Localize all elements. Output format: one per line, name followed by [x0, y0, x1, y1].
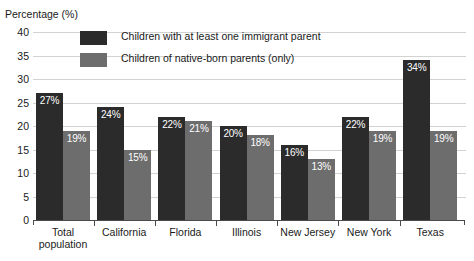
gridline-25 — [33, 103, 466, 104]
bar-florida-series-1: 21% — [185, 121, 212, 220]
y-tick-label-15: 15 — [1, 144, 29, 156]
y-tick-label-40: 40 — [1, 26, 29, 38]
bar-value-label: 22% — [342, 119, 369, 130]
bar-value-label: 15% — [124, 152, 151, 163]
category-label-line: population — [24, 238, 102, 250]
legend-swatch-icon-series-0 — [80, 31, 107, 45]
y-tick-label-20: 20 — [1, 120, 29, 132]
bar-texas-series-0: 34% — [403, 60, 430, 220]
bar-value-label: 24% — [97, 109, 124, 120]
bar-california-series-0: 24% — [97, 107, 124, 220]
x-axis-start-tick — [33, 220, 34, 225]
legend-swatch-icon-series-1 — [80, 53, 107, 67]
bar-value-label: 22% — [158, 119, 185, 130]
bar-value-label: 18% — [247, 137, 274, 148]
bar-total-population-series-0: 27% — [36, 93, 63, 220]
y-tick-label-25: 25 — [1, 97, 29, 109]
category-label-line: Texas — [391, 226, 469, 238]
bar-value-label: 20% — [220, 128, 247, 139]
bar-chart: Percentage (%) 0510152025303540 27%19%24… — [0, 0, 474, 261]
bar-new-jersey-series-0: 16% — [281, 145, 308, 220]
bar-new-york-series-1: 19% — [369, 131, 396, 220]
y-tick-label-35: 35 — [1, 50, 29, 62]
category-label-texas: Texas — [391, 226, 469, 238]
bar-florida-series-0: 22% — [158, 117, 185, 220]
bar-texas-series-1: 19% — [430, 131, 457, 220]
y-tick-label-30: 30 — [1, 73, 29, 85]
bar-illinois-series-1: 18% — [247, 135, 274, 220]
legend-label-series-1: Children of native-born parents (only) — [121, 52, 294, 64]
gridline-30 — [33, 79, 466, 80]
bar-value-label: 16% — [281, 147, 308, 158]
bar-value-label: 19% — [430, 133, 457, 144]
bar-value-label: 13% — [308, 161, 335, 172]
y-tick-label-10: 10 — [1, 167, 29, 179]
bar-new-york-series-0: 22% — [342, 117, 369, 220]
bar-value-label: 27% — [36, 95, 63, 106]
bar-value-label: 19% — [369, 133, 396, 144]
bar-new-jersey-series-1: 13% — [308, 159, 335, 220]
x-axis-end-tick — [464, 220, 465, 225]
bar-total-population-series-1: 19% — [63, 131, 90, 220]
bar-california-series-1: 15% — [124, 150, 151, 221]
legend-label-series-0: Children with at least one immigrant par… — [121, 30, 321, 42]
y-tick-label-0: 0 — [1, 214, 29, 226]
bar-value-label: 21% — [185, 123, 212, 134]
bar-value-label: 34% — [403, 62, 430, 73]
bar-value-label: 19% — [63, 133, 90, 144]
bar-illinois-series-0: 20% — [220, 126, 247, 220]
y-tick-label-5: 5 — [1, 191, 29, 203]
